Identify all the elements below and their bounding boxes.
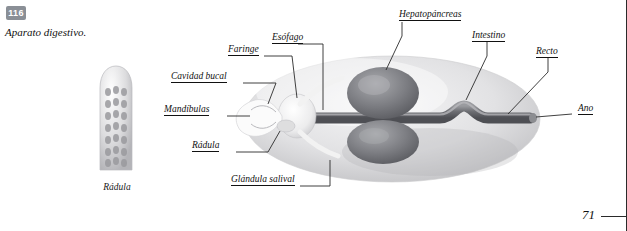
page-number: 71: [582, 207, 595, 223]
hepatopancreas-lobes: [347, 67, 419, 164]
radula-inset-drawing: [100, 66, 132, 170]
label-radula: Rádula: [192, 140, 219, 152]
head-region: [236, 78, 342, 156]
label-hepatopancreas: Hepatopáncreas: [399, 9, 461, 21]
digestive-system-illustration: [0, 0, 627, 231]
label-mandibulas: Mandíbulas: [164, 104, 209, 116]
label-ano: Ano: [578, 103, 593, 115]
label-glandula-salival: Glándula salival: [231, 174, 295, 186]
label-faringe: Faringe: [228, 44, 259, 56]
label-cavidad-bucal: Cavidad bucal: [171, 71, 227, 83]
book-page: 116 Aparato digestivo.: [0, 0, 627, 231]
body-mass: [244, 56, 540, 182]
radula-inset-caption: Rádula: [100, 182, 134, 192]
gut-tube: [300, 103, 537, 124]
figure-caption: Aparato digestivo.: [5, 26, 86, 38]
label-intestino: Intestino: [472, 30, 505, 42]
page-number-rule: [601, 216, 627, 217]
figure-number-badge: 116: [6, 6, 26, 20]
leader-lines: [227, 22, 572, 186]
label-esofago: Esófago: [272, 32, 303, 44]
label-recto: Recto: [536, 46, 558, 58]
